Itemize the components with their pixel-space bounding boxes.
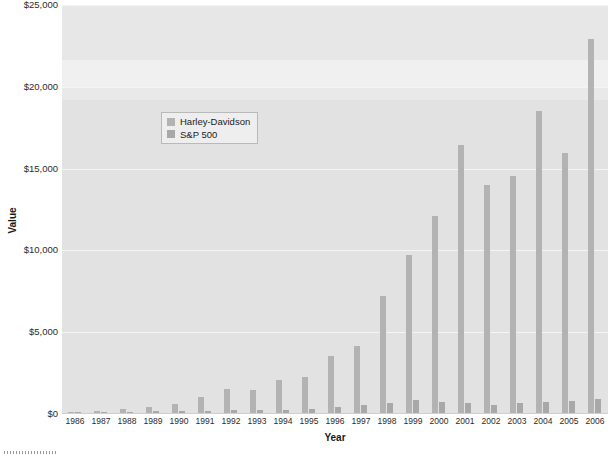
bar-group	[484, 5, 498, 414]
bar-harley-davidson	[458, 145, 464, 414]
axis-baseline	[62, 413, 608, 414]
bar-group	[146, 5, 160, 414]
legend-swatch-harley-davidson	[167, 118, 175, 126]
x-axis-tick-label: 1997	[348, 417, 374, 426]
bar-harley-davidson	[354, 346, 360, 414]
legend-label-sp-500: S&P 500	[180, 130, 217, 140]
bar-harley-davidson	[328, 356, 334, 414]
bar-group	[198, 5, 212, 414]
bar-group	[224, 5, 238, 414]
x-axis-tick-label: 2001	[452, 417, 478, 426]
legend: Harley-Davidson S&P 500	[161, 112, 258, 144]
x-axis-tick-label: 1991	[192, 417, 218, 426]
bar-group	[328, 5, 342, 414]
x-axis-tick-label: 1995	[296, 417, 322, 426]
x-axis-tick-label: 1990	[166, 417, 192, 426]
bar-group	[302, 5, 316, 414]
plot-area: Harley-Davidson S&P 500	[62, 5, 608, 414]
bar-series-container	[62, 5, 608, 414]
x-axis-tick-label: 1996	[322, 417, 348, 426]
y-axis-tick-label: $10,000	[0, 245, 58, 255]
x-axis-tick-label: 1989	[140, 417, 166, 426]
y-axis-tick-label: $25,000	[0, 0, 58, 10]
x-axis-tick-label: 2003	[504, 417, 530, 426]
x-axis-tick-label: 2006	[582, 417, 608, 426]
legend-swatch-sp-500	[167, 130, 175, 138]
bar-harley-davidson	[302, 377, 308, 414]
bar-group	[250, 5, 264, 414]
bar-harley-davidson	[432, 216, 438, 414]
y-axis-tick-label: $15,000	[0, 164, 58, 174]
x-axis-tick-label: 1994	[270, 417, 296, 426]
bar-harley-davidson	[484, 185, 490, 414]
x-axis-tick-label: 1992	[218, 417, 244, 426]
x-axis-tick-label: 2002	[478, 417, 504, 426]
x-axis-tick-label: 2000	[426, 417, 452, 426]
y-axis-tick-label: $0	[0, 409, 58, 419]
bar-group	[562, 5, 576, 414]
x-axis-tick-label: 1988	[114, 417, 140, 426]
x-axis-tick-label: 1998	[374, 417, 400, 426]
x-axis-tick-label: 2005	[556, 417, 582, 426]
x-axis-tick-labels: 1986198719881989199019911992199319941995…	[62, 417, 608, 431]
legend-item-harley-davidson: Harley-Davidson	[167, 117, 250, 127]
bar-group	[276, 5, 290, 414]
bar-sp-500	[595, 399, 601, 414]
bar-group	[354, 5, 368, 414]
bar-harley-davidson	[380, 296, 386, 414]
bar-group	[94, 5, 108, 414]
x-axis-title: Year	[62, 432, 608, 443]
x-axis-tick-label: 2004	[530, 417, 556, 426]
bar-harley-davidson	[250, 390, 256, 414]
legend-label-harley-davidson: Harley-Davidson	[180, 117, 250, 127]
bar-sp-500	[413, 400, 419, 414]
x-axis-tick-label: 1986	[62, 417, 88, 426]
x-axis-tick-label: 1987	[88, 417, 114, 426]
bar-group	[510, 5, 524, 414]
bar-chart: Value $0$5,000$10,000$15,000$20,000$25,0…	[0, 0, 614, 463]
bar-harley-davidson	[198, 397, 204, 414]
bar-harley-davidson	[562, 153, 568, 414]
bar-harley-davidson	[588, 39, 594, 414]
bar-group	[432, 5, 446, 414]
bar-group	[68, 5, 82, 414]
bar-group	[458, 5, 472, 414]
bar-harley-davidson	[224, 389, 230, 414]
bar-group	[380, 5, 394, 414]
dotted-line-artifact	[4, 451, 58, 454]
bar-harley-davidson	[536, 111, 542, 414]
y-axis-tick-label: $20,000	[0, 82, 58, 92]
bar-harley-davidson	[276, 380, 282, 414]
x-axis-tick-label: 1999	[400, 417, 426, 426]
bar-harley-davidson	[406, 255, 412, 414]
bar-harley-davidson	[510, 176, 516, 414]
bar-group	[536, 5, 550, 414]
bar-group	[406, 5, 420, 414]
bar-group	[120, 5, 134, 414]
bar-group	[172, 5, 186, 414]
legend-item-sp-500: S&P 500	[167, 130, 250, 140]
y-axis-tick-labels: $0$5,000$10,000$15,000$20,000$25,000	[0, 0, 58, 463]
y-axis-tick-label: $5,000	[0, 327, 58, 337]
bar-group	[588, 5, 602, 414]
x-axis-tick-label: 1993	[244, 417, 270, 426]
